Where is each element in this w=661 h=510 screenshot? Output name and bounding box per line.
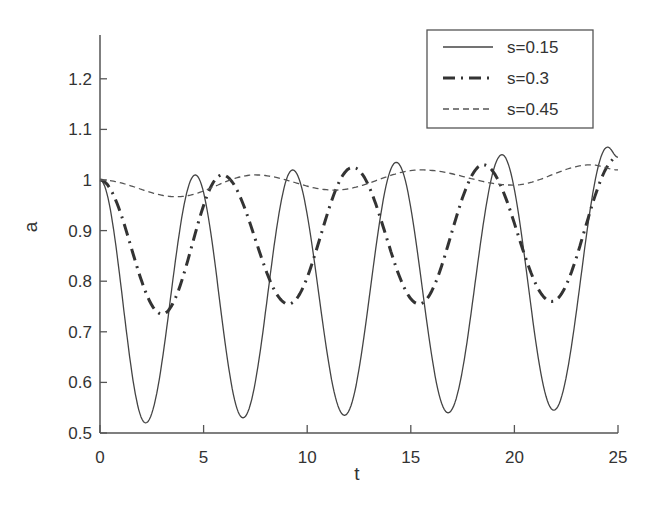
series-line-dashed	[100, 165, 618, 197]
legend-label-s015: s=0.15	[507, 38, 559, 57]
legend-label-s045: s=0.45	[507, 100, 559, 119]
line-chart: 0510152025 0.50.60.70.80.911.11.2 t a s=…	[0, 0, 661, 510]
x-tick-label: 0	[95, 448, 104, 467]
y-tick-label: 0.5	[68, 424, 92, 443]
x-tick-label: 10	[298, 448, 317, 467]
y-tick-label: 0.8	[68, 272, 92, 291]
y-ticks: 0.50.60.70.80.911.11.2	[68, 70, 107, 443]
y-tick-label: 0.9	[68, 222, 92, 241]
series-line-solid	[100, 147, 618, 423]
series-line-dashdot	[100, 157, 618, 314]
y-tick-label: 1	[83, 171, 92, 190]
x-tick-label: 20	[505, 448, 524, 467]
y-tick-label: 1.2	[68, 70, 92, 89]
x-axis-label: t	[354, 463, 360, 484]
legend: s=0.15 s=0.3 s=0.45	[427, 30, 593, 128]
x-tick-label: 15	[401, 448, 420, 467]
legend-label-s03: s=0.3	[507, 69, 549, 88]
plot-curves	[100, 147, 618, 423]
y-tick-label: 0.7	[68, 323, 92, 342]
x-tick-label: 25	[609, 448, 628, 467]
y-axis-label: a	[20, 221, 41, 232]
x-tick-label: 5	[199, 448, 208, 467]
y-tick-label: 0.6	[68, 373, 92, 392]
y-tick-label: 1.1	[68, 120, 92, 139]
x-ticks: 0510152025	[95, 425, 627, 467]
